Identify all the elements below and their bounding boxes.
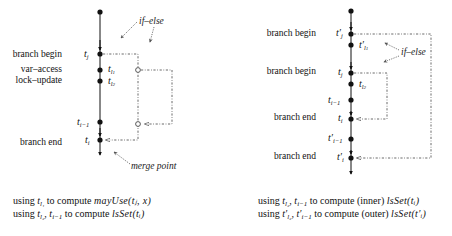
- left-node-tl2: [97, 78, 102, 83]
- left-inner-branch-path: [141, 70, 172, 124]
- left-label-branch-end: branch end: [20, 137, 62, 147]
- right-caption-line-2: using t′l₂, t′i−1 to compute (outer) lsS…: [258, 208, 426, 224]
- left-node-tl1: [97, 67, 102, 72]
- right-math-tpi: t′i: [337, 151, 344, 163]
- left-node-start: [97, 9, 102, 14]
- right-label-branch-end-inner: branch end: [274, 112, 316, 122]
- right-node-tl2: [348, 81, 353, 86]
- right-math-tpl1: t′l1: [359, 39, 368, 51]
- right-math-tpj: t′j: [336, 27, 343, 39]
- right-node-ti-1: [348, 97, 353, 102]
- right-node-tpi: [348, 155, 353, 160]
- left-annotation-if-else: if–else: [139, 16, 164, 26]
- left-node-ti-1: [97, 119, 102, 124]
- left-math-tl2: tl2: [108, 75, 116, 87]
- right-node-start: [348, 8, 353, 13]
- left-diagram: branch begin var–access lock–update bran…: [13, 9, 177, 171]
- right-node-ti: [348, 116, 353, 121]
- right-node-tpj: [348, 31, 353, 36]
- left-math-ti-1: ti−1: [77, 116, 89, 128]
- left-math-ti: ti: [85, 134, 90, 146]
- right-math-ti: ti: [338, 112, 343, 124]
- left-node-ti: [97, 137, 102, 142]
- right-math-ti-1: ti−1: [328, 94, 340, 106]
- right-diagram: branch begin branch begin branch end bra…: [267, 8, 431, 174]
- left-label-var-access: var–access: [21, 64, 62, 74]
- right-math-tpi-1: t′i−1: [328, 132, 342, 144]
- right-label-branch-begin-inner: branch begin: [267, 66, 317, 76]
- right-node-tj: [348, 70, 353, 75]
- left-branch-open-node-bottom: [136, 122, 141, 127]
- left-label-lock-update: lock–update: [16, 75, 62, 85]
- right-label-branch-end-outer: branch end: [274, 151, 316, 161]
- right-label-branch-begin-outer: branch begin: [267, 28, 317, 38]
- left-node-tj: [97, 51, 102, 56]
- left-branch-open-node-top: [136, 68, 141, 73]
- right-math-tl2: tl2: [359, 78, 367, 90]
- right-node-tpl1: [348, 42, 353, 47]
- right-math-tj: tj: [338, 66, 343, 78]
- left-math-tl1: tl1: [108, 63, 115, 75]
- right-node-tpi-1: [348, 136, 353, 141]
- left-math-tj: tj: [84, 48, 89, 60]
- left-label-branch-begin: branch begin: [13, 49, 63, 59]
- left-caption-line-2: using tl₂, ti−1 to compute lsSet(tᵢ): [13, 208, 145, 224]
- left-annotation-merge-point: merge point: [131, 161, 177, 171]
- right-annotation-if-else: if–else: [401, 47, 426, 57]
